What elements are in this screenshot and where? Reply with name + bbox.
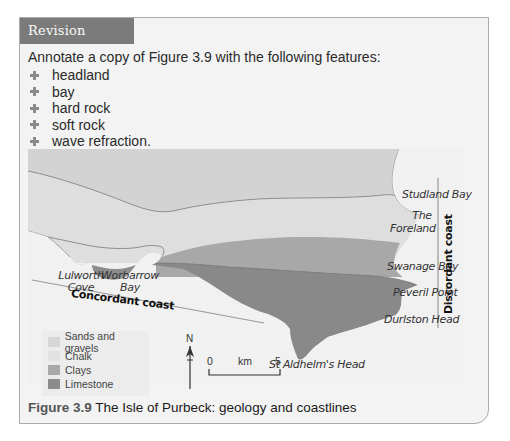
swatch-chalk	[48, 351, 60, 361]
figure-caption: Figure 3.9 The Isle of Purbeck: geology …	[28, 400, 356, 415]
feature-list: headland bay hard rock soft rock wave re…	[28, 67, 151, 150]
list-item: headland	[28, 67, 151, 84]
legend-item-clays: Clays	[48, 363, 91, 377]
label-durlston-head: Durlston Head	[384, 313, 459, 326]
legend-item-chalk: Chalk	[48, 349, 92, 363]
swatch-clays	[48, 365, 60, 375]
revision-activity-card: Revision activity Annotate a copy of Fig…	[19, 17, 489, 424]
swatch-sands	[48, 337, 60, 347]
label-the-foreland-1: The	[404, 210, 440, 222]
activity-header: Revision activity	[20, 18, 134, 44]
list-item: soft rock	[28, 117, 151, 134]
list-item: wave refraction.	[28, 133, 151, 150]
plus-bullet-icon	[30, 137, 39, 146]
scale-bar: 0 km 5	[207, 355, 283, 385]
plus-bullet-icon	[30, 87, 39, 96]
purbeck-geology-map: Studland Bay The Foreland Swanage Bay Pe…	[28, 149, 464, 383]
list-item: hard rock	[28, 100, 151, 117]
map-legend: Sands and gravels Chalk Clays Limestone	[42, 331, 149, 396]
label-studland-bay: Studland Bay	[402, 188, 472, 201]
label-the-foreland-2: Foreland	[390, 222, 436, 235]
legend-item-sands: Sands and gravels	[48, 335, 149, 349]
list-item: bay	[28, 84, 151, 101]
scale-bar-icon	[207, 355, 287, 385]
plus-bullet-icon	[30, 104, 39, 113]
swatch-limestone	[48, 379, 60, 389]
label-worbarrow-bay: Worbarrow Bay	[100, 270, 160, 294]
legend-item-limestone: Limestone	[48, 377, 113, 391]
plus-bullet-icon	[30, 71, 39, 80]
plus-bullet-icon	[30, 120, 39, 129]
north-arrow: N	[184, 333, 198, 393]
north-arrow-icon	[184, 333, 198, 393]
activity-intro: Annotate a copy of Figure 3.9 with the f…	[28, 49, 381, 65]
